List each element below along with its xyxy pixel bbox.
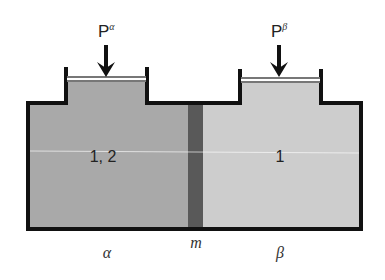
piston-beta <box>241 77 320 83</box>
pressure-arrow-beta-icon <box>270 45 288 77</box>
alpha-phase-label: α <box>103 244 112 261</box>
membrane-label: m <box>190 234 202 251</box>
pressure-label-beta: Pβ <box>271 21 287 41</box>
piston-alpha <box>67 76 146 82</box>
beta-phase-label: β <box>275 244 284 262</box>
container-wall-middle <box>147 67 240 103</box>
pressure-arrow-alpha-icon <box>97 45 115 77</box>
beta-content-label: 1 <box>276 148 285 165</box>
diagram-canvas: Pα Pβ 1, 2 1 α m β <box>0 0 385 280</box>
membrane <box>188 105 203 227</box>
alpha-content-label: 1, 2 <box>90 148 117 165</box>
pressure-label-alpha: Pα <box>98 21 115 41</box>
